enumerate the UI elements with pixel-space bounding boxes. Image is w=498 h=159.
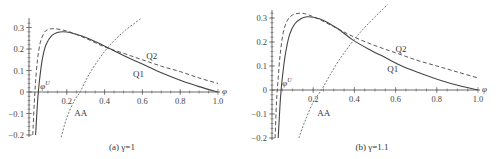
x-tick-label: 0.6 <box>137 96 148 106</box>
panel-b-gamma-1-1: 0.30.20.10−0.1−0.20.20.40.60.81.0φφUQ2Q1… <box>252 5 487 152</box>
annotation-q2-label: Q2 <box>396 44 407 54</box>
x-tick-label: 1.0 <box>473 94 484 104</box>
x-tick-label: 0.4 <box>99 96 110 106</box>
annotation-q1-label: Q1 <box>387 64 398 74</box>
y-tick-label: −0.1 <box>9 109 24 119</box>
y-tick-label: 0.3 <box>13 23 24 33</box>
annotation-q2-label: Q2 <box>146 51 157 61</box>
x-tick-label: 0.6 <box>390 94 401 104</box>
annotation-aa-label: AA <box>317 108 330 118</box>
annotation-aa-label: AA <box>74 108 87 118</box>
x-axis-label: φ <box>482 84 487 94</box>
x-tick-label: 0.8 <box>431 94 442 104</box>
annotation-phi-u-label: φU <box>282 77 292 88</box>
series-q2-curve <box>33 29 218 135</box>
y-tick-label: 0 <box>263 85 267 95</box>
series-aa-curve <box>61 19 140 137</box>
y-tick-label: 0.1 <box>256 61 267 71</box>
y-tick-label: 0.3 <box>256 13 267 23</box>
series-q1-curve <box>278 17 478 138</box>
x-tick-label: 1.0 <box>213 96 224 106</box>
y-tick-label: 0 <box>20 87 24 97</box>
y-tick-label: −0.1 <box>252 109 267 119</box>
y-tick-label: 0.2 <box>256 37 267 47</box>
panel-caption: (b) γ=1.1 <box>355 142 388 152</box>
x-tick-label: 0.8 <box>175 96 186 106</box>
y-tick-label: −0.2 <box>9 130 24 140</box>
y-tick-label: −0.2 <box>252 133 267 143</box>
panel-a-gamma-1: 0.30.20.10−0.1−0.20.20.40.60.81.0φφUQ2Q1… <box>9 18 227 152</box>
x-tick-label: 0.2 <box>308 94 319 104</box>
annotation-phi-u-label: φU <box>40 80 50 91</box>
y-tick-label: 0.2 <box>13 44 24 54</box>
y-tick-label: 0.1 <box>13 66 24 76</box>
series-q2-curve <box>275 13 478 138</box>
series-q1-curve <box>36 32 218 135</box>
x-tick-label: 0.4 <box>349 94 360 104</box>
x-axis-label: φ <box>222 86 227 96</box>
series-aa-curve <box>299 5 388 138</box>
x-tick-label: 0.2 <box>61 96 72 106</box>
panel-caption: (a) γ=1 <box>109 142 135 152</box>
annotation-q1-label: Q1 <box>133 69 144 79</box>
figure-canvas: 0.30.20.10−0.1−0.20.20.40.60.81.0φφUQ2Q1… <box>0 0 498 159</box>
